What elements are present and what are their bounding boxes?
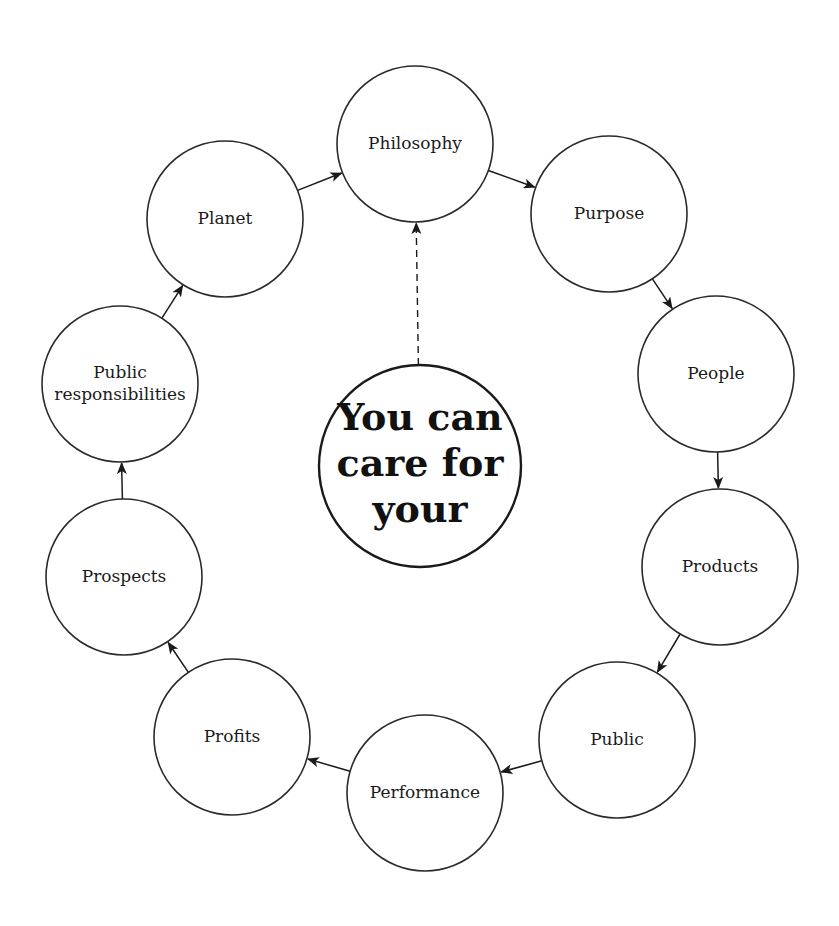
node-planet: Planet xyxy=(147,141,303,297)
arrow-purpose-to-people xyxy=(652,279,672,309)
node-label: Public xyxy=(590,729,644,749)
arrow-philosophy-to-purpose xyxy=(488,171,534,188)
arrow-prospects-to-public-responsibilities xyxy=(122,463,123,499)
node-label: Philosophy xyxy=(368,133,462,153)
node-purpose: Purpose xyxy=(531,136,687,292)
node-performance: Performance xyxy=(347,715,503,871)
arrow-planet-to-philosophy xyxy=(298,173,342,190)
node-label: Public xyxy=(93,362,147,382)
node-label: People xyxy=(687,363,744,383)
node-public: Public xyxy=(539,662,695,818)
care-cycle-diagram: PhilosophyPurposePeopleProductsPublicPer… xyxy=(0,0,839,926)
node-philosophy: Philosophy xyxy=(337,66,493,222)
arrow-people-to-products xyxy=(718,452,719,488)
center-label: care for xyxy=(337,440,505,485)
center-node: You cancare foryour xyxy=(319,365,521,567)
node-label: Purpose xyxy=(574,203,644,223)
arrow-public-responsibilities-to-planet xyxy=(162,286,183,319)
arrow-products-to-public xyxy=(657,634,680,672)
node-label: Profits xyxy=(204,726,261,746)
node-label: Planet xyxy=(198,208,253,228)
node-public-responsibilities: Publicresponsibilities xyxy=(42,306,198,462)
node-label: Prospects xyxy=(82,566,167,586)
node-label: Performance xyxy=(370,782,480,802)
node-people: People xyxy=(638,296,794,452)
arrow-profits-to-prospects xyxy=(168,643,188,673)
node-prospects: Prospects xyxy=(46,499,202,655)
arrow-performance-to-profits xyxy=(308,759,350,771)
arrow-center-to-philosophy xyxy=(416,223,418,365)
node-label: responsibilities xyxy=(54,384,185,404)
node-products: Products xyxy=(642,489,798,645)
node-profits: Profits xyxy=(154,659,310,815)
arrow-public-to-performance xyxy=(501,761,542,772)
center-label: your xyxy=(371,486,468,531)
node-label: Products xyxy=(682,556,759,576)
center-label: You can xyxy=(336,394,502,439)
